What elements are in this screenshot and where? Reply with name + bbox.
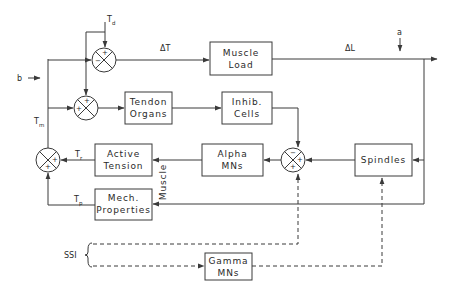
signal-tr: Tr bbox=[74, 150, 83, 161]
label-mech-properties-2: Properties bbox=[96, 205, 150, 215]
line-length-feedback bbox=[153, 59, 424, 204]
label-inhib-cells-2: Cells bbox=[234, 109, 260, 119]
line-inhib-to-junction bbox=[272, 108, 298, 147]
sign-top-junction-top: + bbox=[102, 49, 108, 57]
label-gamma-mns-2: MNs bbox=[218, 268, 240, 278]
label-active-tension-1: Active bbox=[107, 149, 140, 159]
sign-second-junction-left: + bbox=[76, 105, 82, 113]
label-active-tension-2: Tension bbox=[103, 161, 144, 171]
line-tp bbox=[48, 173, 95, 205]
signal-td: Td bbox=[106, 15, 115, 26]
sign-top-junction-left: − bbox=[95, 57, 101, 65]
sign-left-junction-bottom: + bbox=[45, 163, 51, 171]
signal-b: b bbox=[17, 74, 22, 83]
sign-right-junction-right: + bbox=[297, 156, 303, 164]
sign-right-junction-top: − bbox=[290, 149, 296, 157]
label-spindles: Spindles bbox=[361, 155, 406, 165]
signal-tm: Tm bbox=[33, 117, 44, 128]
label-alpha-mns-1: Alpha bbox=[217, 149, 247, 159]
label-muscle-group: Muscle bbox=[158, 164, 168, 201]
label-tendon-organs-1: Tendon bbox=[129, 97, 168, 107]
label-gamma-mns-1: Gamma bbox=[208, 256, 248, 266]
label-inhib-cells-1: Inhib. bbox=[232, 97, 263, 107]
label-tendon-organs-2: Organs bbox=[130, 109, 168, 119]
sign-left-junction-right: + bbox=[52, 156, 58, 164]
sign-right-junction-bottom: + bbox=[290, 163, 296, 171]
block-muscle-load bbox=[210, 42, 272, 75]
signal-delta-t: ΔT bbox=[160, 44, 170, 53]
block-diagram: Muscle Load Tendon Organs Inhib. Cells A… bbox=[0, 0, 451, 299]
signal-a: a bbox=[397, 28, 402, 37]
label-muscle-load-1: Muscle bbox=[223, 48, 260, 58]
line-gamma-to-spindles bbox=[252, 178, 382, 266]
label-alpha-mns-2: MNs bbox=[222, 161, 244, 171]
signal-delta-l: ΔL bbox=[345, 44, 355, 53]
label-muscle-load-2: Load bbox=[228, 60, 253, 70]
ssi-brace bbox=[85, 243, 92, 267]
sign-second-junction-top: + bbox=[84, 97, 90, 105]
signal-ssi: SSI bbox=[64, 251, 77, 260]
label-mech-properties-1: Mech. bbox=[108, 193, 139, 203]
